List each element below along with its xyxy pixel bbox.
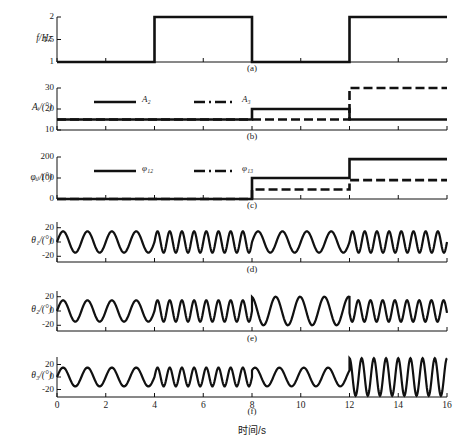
legend-c-label-1: φ₁₃ [242, 163, 253, 173]
panel-e-ylabel: θ₂/(°) [8, 304, 52, 314]
xtick-0: 0 [45, 400, 69, 410]
legend-b-swatch-0 [92, 96, 138, 108]
panel-d-ytick-2: 20 [24, 222, 54, 232]
panel-f-ylabel: θ₃/(°) [8, 370, 52, 380]
panel-e-ytick-2: 20 [24, 291, 54, 301]
panel-a-caption: (a) [232, 63, 272, 73]
legend-b-label-0: A₂ [142, 94, 151, 104]
legend-b-label-1: A₃ [242, 94, 251, 104]
xtick-14: 14 [386, 400, 410, 410]
panel-b-caption: (b) [232, 131, 272, 141]
panel-b-ytick-2: 30 [24, 82, 54, 92]
xtick-4: 4 [143, 400, 167, 410]
panel-c-ytick-2: 200 [24, 151, 54, 161]
panel-a-plot [0, 0, 457, 443]
panel-f-ytick-0: -20 [24, 384, 54, 394]
x-axis-label: 时间/s [222, 422, 282, 437]
legend-b-swatch-1 [192, 96, 238, 108]
xtick-12: 12 [338, 400, 362, 410]
xtick-16: 16 [435, 400, 457, 410]
panel-d-caption: (d) [232, 264, 272, 274]
legend-c-swatch-0 [92, 165, 138, 177]
figure-canvas: 11.52f/Hz(a)102030Aᵢ/(°)(b)0100200φᵢⱼ/(°… [0, 0, 457, 443]
panel-a-ytick-0: 1 [24, 56, 54, 66]
panel-e-ytick-0: -20 [24, 319, 54, 329]
panel-c-ytick-0: 0 [24, 193, 54, 203]
panel-d-plot [0, 0, 457, 443]
xtick-10: 10 [289, 400, 313, 410]
xtick-2: 2 [94, 400, 118, 410]
panel-c-caption: (c) [232, 200, 272, 210]
panel-a-ytick-2: 2 [24, 11, 54, 21]
panel-b-plot [0, 0, 457, 443]
panel-b-ytick-0: 10 [24, 124, 54, 134]
legend-c-swatch-1 [192, 165, 238, 177]
xtick-6: 6 [191, 400, 215, 410]
panel-e-plot [0, 0, 457, 443]
xtick-8: 8 [240, 400, 264, 410]
panel-f-plot [0, 0, 457, 443]
panel-d-ylabel: θ₁/(°) [8, 235, 52, 245]
panel-c-plot [0, 0, 457, 443]
panel-f-ytick-2: 20 [24, 359, 54, 369]
panel-d-ytick-0: -20 [24, 250, 54, 260]
panel-b-ylabel: Aᵢ/(°) [8, 102, 52, 112]
legend-c-label-0: φ₁₂ [142, 163, 153, 173]
panel-a-ylabel: f/Hz [8, 33, 52, 43]
panel-c-ylabel: φᵢⱼ/(°) [8, 171, 52, 182]
panel-e-caption: (e) [232, 333, 272, 343]
